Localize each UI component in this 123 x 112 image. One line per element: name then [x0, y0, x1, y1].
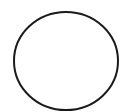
- circle-drawing: [0, 0, 123, 112]
- circle-outline-icon: [14, 12, 118, 110]
- drawing-canvas: [0, 0, 123, 112]
